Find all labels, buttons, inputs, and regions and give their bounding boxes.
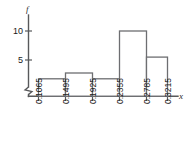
y-axis-label: f xyxy=(26,4,30,14)
x-tick-label-6: 0.3215 xyxy=(163,78,173,104)
x-tick-label-3: 0.1925 xyxy=(88,78,98,104)
histogram-figure: f x 10 5 0.1065 0.1495 0.1925 0.2355 0.2… xyxy=(0,0,191,147)
x-tick-label-2: 0.1495 xyxy=(61,78,71,104)
x-axis-label: x xyxy=(178,91,183,101)
histogram-svg: f x 10 5 0.1065 0.1495 0.1925 0.2355 0.2… xyxy=(0,0,191,147)
axis-break-zigzag xyxy=(25,87,32,95)
x-tick-label-4: 0.2355 xyxy=(115,78,125,104)
x-tick-label-5: 0.2785 xyxy=(142,78,152,104)
y-tick-label-10: 10 xyxy=(13,26,23,36)
y-tick-label-5: 5 xyxy=(18,55,23,65)
x-tick-label-1: 0.1065 xyxy=(34,78,44,104)
